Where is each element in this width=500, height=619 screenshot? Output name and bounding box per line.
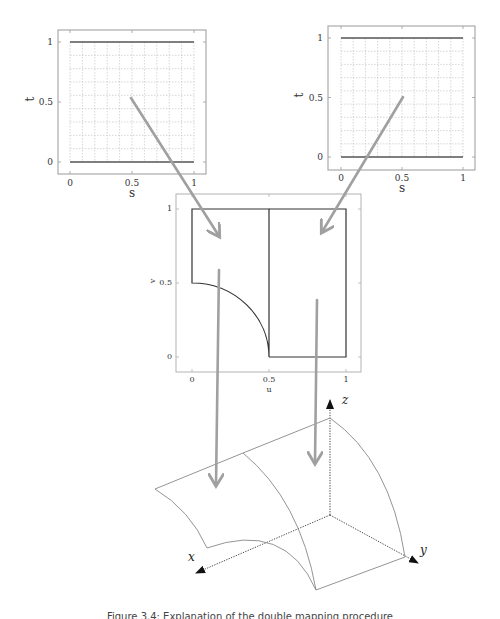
ytick-0: 0: [47, 157, 53, 167]
xtick-0: 0: [189, 375, 194, 384]
ytick-1: 1: [167, 204, 172, 213]
arrow-right-uv-to-surface: [315, 300, 317, 463]
xaxis-label: s: [129, 186, 135, 200]
yaxis-label: v: [148, 278, 157, 284]
y-axis-label: y: [419, 543, 427, 557]
xtick-0.5: 0.5: [263, 375, 276, 384]
xtick-0: 0: [338, 173, 344, 183]
plot-middle-uv: 1 0.5 0 0 0.5 1 u v: [148, 194, 361, 394]
right-edge-curve: [330, 418, 405, 557]
grid: [70, 42, 194, 162]
xtick-1: 1: [191, 178, 197, 188]
arrow-left-uv-to-surface: [216, 270, 219, 485]
xaxis-label: s: [399, 181, 405, 195]
x-axis-label: x: [188, 550, 195, 564]
top-edge: [155, 418, 330, 489]
bottom-edge: [316, 557, 405, 590]
front-bottom-curve: [207, 540, 316, 590]
plot-right-st: 1 0.5 0 0 0.5 1 s t: [292, 26, 475, 195]
right-patch-outline: [269, 209, 346, 357]
ytick-0: 0: [167, 352, 172, 361]
ytick-0.5: 0.5: [159, 278, 172, 287]
ytick-1: 1: [47, 37, 53, 47]
ytick-0.5: 0.5: [309, 93, 324, 103]
xtick-0: 0: [67, 178, 73, 188]
xtick-1: 1: [343, 375, 348, 384]
middle-seam-curve: [243, 453, 316, 590]
xtick-1: 1: [460, 173, 466, 183]
yaxis-label: t: [23, 96, 37, 101]
left-patch-outline: [192, 209, 269, 357]
ytick-0.5: 0.5: [39, 97, 54, 107]
surface-3d: z x y: [155, 393, 427, 590]
double-mapping-figure: 1 0.5 0 0 0.5 1 s t 1: [0, 0, 500, 619]
ytick-1: 1: [317, 33, 323, 43]
mapping-arrows: [131, 97, 403, 485]
ytick-0: 0: [317, 152, 323, 162]
figure-caption: Figure 3.4: Explanation of the double ma…: [0, 607, 500, 619]
left-edge-curve: [155, 489, 207, 548]
yaxis-label: t: [292, 92, 306, 97]
z-axis-label: z: [341, 393, 349, 407]
xaxis-label: u: [266, 385, 271, 394]
